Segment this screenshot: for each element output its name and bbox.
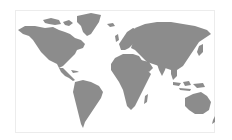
region-north-america xyxy=(18,26,85,68)
region-indian-subcontinent xyxy=(157,64,167,76)
region-central-america xyxy=(59,68,75,81)
region-iceland xyxy=(107,23,115,27)
region-south-america xyxy=(73,80,103,128)
world-map xyxy=(15,10,215,133)
region-indonesia xyxy=(173,81,205,91)
region-canadian-arctic-islands xyxy=(43,18,73,26)
region-united-kingdom xyxy=(115,34,119,42)
region-southeast-asia xyxy=(171,68,177,80)
map-title: World Map xyxy=(0,0,1,1)
region-greenland xyxy=(77,13,101,36)
region-caribbean xyxy=(71,70,79,73)
region-australia xyxy=(185,92,211,114)
region-japan xyxy=(197,44,203,56)
region-new-zealand xyxy=(212,114,215,124)
region-madagascar xyxy=(144,94,148,104)
